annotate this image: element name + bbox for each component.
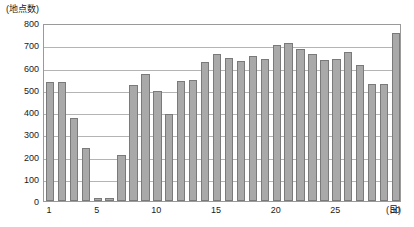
x-axis-tick-label: 15: [211, 205, 221, 215]
bar: [189, 80, 197, 201]
bar: [368, 84, 376, 201]
bar: [356, 65, 364, 201]
bar: [225, 58, 233, 202]
y-axis-tick-label: 500: [0, 86, 39, 95]
x-axis-tick-label: 1: [46, 205, 51, 215]
bar: [332, 59, 340, 201]
bar: [213, 54, 221, 201]
x-axis-tick-labels: 151015202530: [43, 203, 401, 219]
y-axis-tick-label: 800: [0, 20, 39, 29]
y-axis-tick-label: 700: [0, 42, 39, 51]
bar: [46, 82, 54, 201]
x-axis-tick-label: 5: [94, 205, 99, 215]
y-axis-tick-label: 300: [0, 131, 39, 140]
bar: [237, 61, 245, 201]
bar: [284, 43, 292, 201]
x-axis-unit-label: (日): [386, 205, 401, 215]
bar: [70, 118, 78, 201]
bar: [273, 45, 281, 201]
bar: [380, 84, 388, 201]
bar: [249, 56, 257, 201]
gridline: [44, 47, 400, 48]
x-axis-tick-label: 20: [271, 205, 281, 215]
plot-area: [44, 25, 400, 201]
bar: [308, 54, 316, 201]
bar: [177, 81, 185, 201]
bar: [58, 82, 66, 201]
bar: [82, 148, 90, 201]
y-axis-tick-label: 400: [0, 109, 39, 118]
plot-frame: [43, 24, 401, 202]
bar: [94, 198, 102, 201]
bar: [165, 114, 173, 201]
bar: [201, 62, 209, 201]
bar: [105, 198, 113, 201]
bar: [141, 74, 149, 201]
y-axis-tick-label: 200: [0, 153, 39, 162]
y-axis-unit-label: (地点数): [6, 4, 39, 15]
bar: [296, 49, 304, 201]
bar: [261, 59, 269, 201]
y-axis-tick-label: 600: [0, 64, 39, 73]
bar: [344, 52, 352, 201]
x-axis-tick-label: 25: [330, 205, 340, 215]
bar: [392, 33, 400, 201]
y-axis-tick-labels: 0100200300400500600700800: [0, 24, 39, 202]
bar: [320, 60, 328, 201]
bar: [117, 155, 125, 201]
bar: [129, 85, 137, 201]
y-axis-tick-label: 0: [0, 198, 39, 207]
y-axis-tick-label: 100: [0, 175, 39, 184]
bar-chart: (地点数) 0100200300400500600700800 15101520…: [0, 0, 414, 227]
x-axis-tick-label: 10: [151, 205, 161, 215]
bar: [153, 91, 161, 201]
